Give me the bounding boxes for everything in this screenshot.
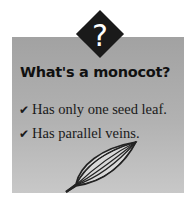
- checkmark-icon: ✔: [19, 127, 29, 141]
- fact-text: Has parallel veins.: [32, 125, 140, 141]
- fact-item: ✔Has only one seed leaf.: [19, 98, 167, 122]
- card-title: What's a monocot?: [20, 64, 170, 80]
- fact-text: Has only one seed leaf.: [32, 101, 167, 117]
- fact-list: ✔Has only one seed leaf. ✔Has parallel v…: [19, 98, 167, 146]
- question-mark-icon: ?: [77, 12, 123, 60]
- monocot-leaf-icon: [62, 140, 138, 194]
- checkmark-icon: ✔: [19, 103, 29, 117]
